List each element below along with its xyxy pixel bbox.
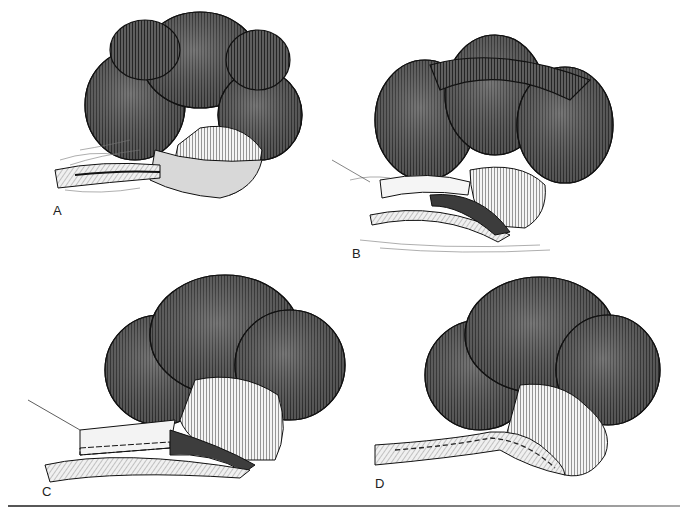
panel-label-c: C bbox=[42, 485, 51, 498]
panel-label-d: D bbox=[375, 477, 384, 490]
panel-c-illustration bbox=[20, 270, 360, 505]
panel-a: A bbox=[0, 0, 340, 240]
panel-c: C bbox=[20, 270, 360, 505]
panel-d: D bbox=[340, 270, 686, 505]
surgical-illustration-figure: A B bbox=[0, 0, 686, 514]
panel-d-illustration bbox=[340, 270, 686, 505]
figure-divider-line bbox=[8, 505, 680, 507]
panel-b-illustration bbox=[320, 10, 686, 270]
panel-a-illustration bbox=[0, 0, 340, 240]
opened-tube-flaps bbox=[370, 167, 545, 242]
panel-b: B bbox=[320, 10, 686, 270]
panel-label-b: B bbox=[352, 247, 361, 260]
organ-lobes bbox=[375, 35, 613, 183]
panel-label-a: A bbox=[53, 204, 62, 217]
